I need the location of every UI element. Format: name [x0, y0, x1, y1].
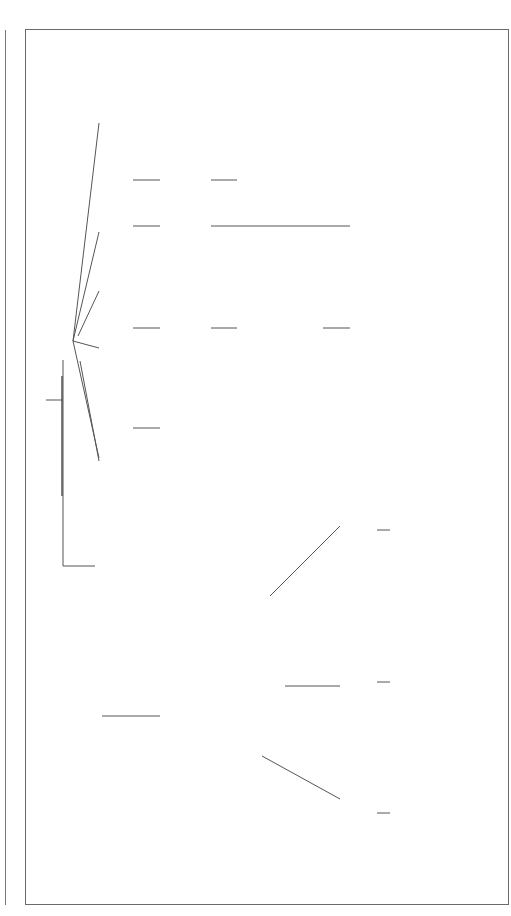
diagram-canvas: [0, 0, 511, 916]
tree-connectors: [0, 0, 511, 916]
